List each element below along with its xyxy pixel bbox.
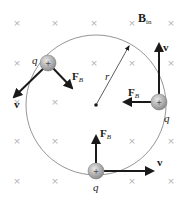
- field-mark-x-icon: ×: [90, 18, 98, 28]
- field-mark-x-icon: ×: [128, 136, 136, 146]
- field-mark-x-icon: ×: [128, 18, 136, 28]
- force-label: FB: [72, 70, 84, 84]
- field-mark-x-icon: ×: [128, 176, 136, 186]
- field-mark-x-icon: ×: [13, 136, 21, 146]
- field-mark-x-icon: ×: [13, 58, 21, 68]
- radius-label: r: [105, 70, 110, 82]
- charge-sign: +: [45, 58, 51, 69]
- charge-bottom: + q FB v: [88, 127, 163, 193]
- field-mark-x-icon: ×: [167, 136, 175, 146]
- field-mark-x-icon: ×: [51, 18, 59, 28]
- field-mark-x-icon: ×: [167, 176, 175, 186]
- force-label: FB: [128, 86, 140, 100]
- field-mark-x-icon: ×: [90, 58, 98, 68]
- charge-right: + q FB v: [124, 41, 170, 124]
- field-mark-x-icon: ×: [51, 176, 59, 186]
- force-arrow: [51, 66, 72, 88]
- velocity-label: v: [14, 98, 20, 110]
- magnetic-field-diagram: ××××××××××××××××××× r Bin + q FB v + q F…: [0, 0, 182, 200]
- radius-line: [96, 46, 129, 105]
- field-mark-x-icon: ×: [167, 18, 175, 28]
- velocity-label: v: [157, 156, 163, 168]
- charge-label: q: [93, 181, 99, 193]
- field-mark-x-icon: ×: [13, 18, 21, 28]
- force-label: FB: [100, 127, 112, 141]
- charge-sign: +: [156, 97, 162, 108]
- field-mark-x-icon: ×: [51, 97, 59, 107]
- charge-sign: +: [93, 166, 99, 177]
- field-label: Bin: [138, 11, 152, 26]
- charge-label: q: [32, 54, 38, 66]
- charge-upper-left: + q FB v: [14, 54, 84, 110]
- field-mark-x-icon: ×: [51, 136, 59, 146]
- field-mark-x-icon: ×: [128, 58, 136, 68]
- velocity-arrow: [14, 66, 46, 97]
- field-mark-x-icon: ×: [167, 58, 175, 68]
- charge-label: q: [164, 112, 170, 124]
- velocity-label: v: [163, 41, 169, 53]
- field-mark-x-icon: ×: [13, 176, 21, 186]
- center-dot: [94, 103, 98, 107]
